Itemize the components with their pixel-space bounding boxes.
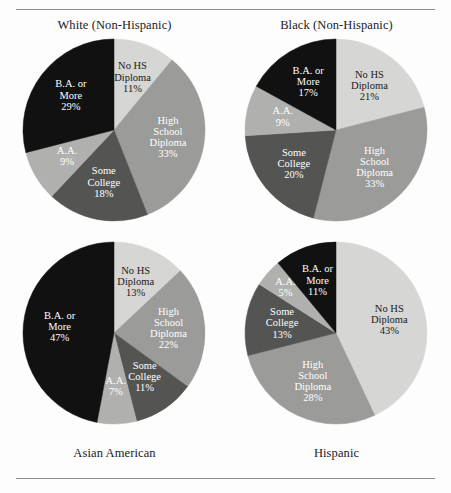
chart-title-black: Black (Non-Hispanic) bbox=[224, 18, 449, 33]
chart-cell-hispanic: No HSDiploma43%HighSchoolDiploma28%SomeC… bbox=[224, 240, 449, 467]
chart-title-asian: Asian American bbox=[2, 446, 227, 461]
pie-asian[interactable]: No HSDiploma13%HighSchoolDiploma22%SomeC… bbox=[2, 240, 227, 426]
chart-title-white: White (Non-Hispanic) bbox=[2, 18, 227, 33]
chart-title-hispanic: Hispanic bbox=[224, 446, 449, 461]
pie-white[interactable]: No HSDiploma11%HighSchoolDiploma33%SomeC… bbox=[2, 37, 227, 223]
pie-svg-asian-american: No HSDiploma13%HighSchoolDiploma22%SomeC… bbox=[2, 240, 227, 426]
pie-svg-white-non-hispanic: No HSDiploma11%HighSchoolDiploma33%SomeC… bbox=[2, 37, 227, 223]
pie-black[interactable]: No HSDiploma21%HighSchoolDiploma33%SomeC… bbox=[224, 37, 449, 223]
chart-cell-white: White (Non-Hispanic) No HSDiploma11%High… bbox=[2, 18, 227, 245]
chart-cell-black: Black (Non-Hispanic) No HSDiploma21%High… bbox=[224, 18, 449, 245]
pie-svg-black-non-hispanic: No HSDiploma21%HighSchoolDiploma33%SomeC… bbox=[224, 37, 449, 223]
pie-hispanic[interactable]: No HSDiploma43%HighSchoolDiploma28%SomeC… bbox=[224, 240, 449, 426]
pie-chart-grid: White (Non-Hispanic) No HSDiploma11%High… bbox=[0, 18, 451, 473]
pie-svg-hispanic: No HSDiploma43%HighSchoolDiploma28%SomeC… bbox=[224, 240, 449, 426]
chart-cell-asian: No HSDiploma13%HighSchoolDiploma22%SomeC… bbox=[2, 240, 227, 467]
bottom-divider-rule bbox=[16, 478, 435, 479]
top-divider-rule bbox=[16, 9, 435, 10]
